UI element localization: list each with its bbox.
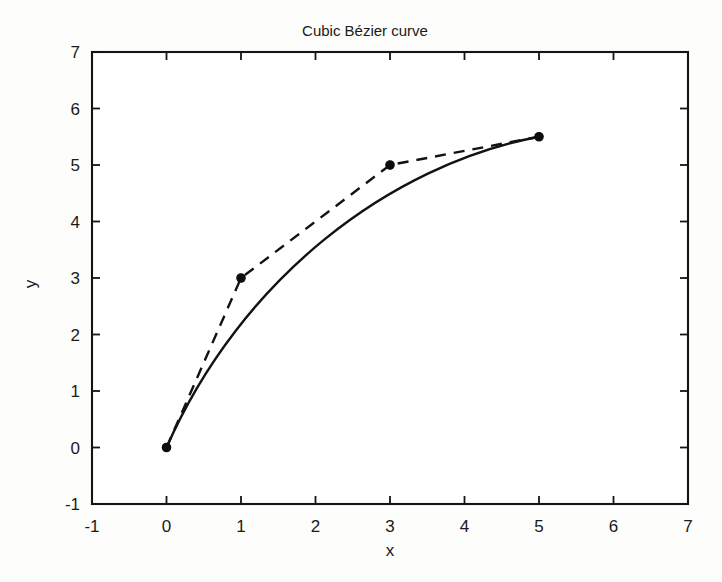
control-point-marker xyxy=(535,133,543,141)
y-tick-label: -1 xyxy=(65,495,80,514)
y-tick-label: 3 xyxy=(71,269,80,288)
bezier-curve-figure: Cubic Bézier curve -101234567 -101234567… xyxy=(0,0,722,582)
x-tick-labels: -101234567 xyxy=(84,517,692,536)
y-axis-label: y xyxy=(21,279,40,288)
y-tick-label: 5 xyxy=(71,156,80,175)
control-point-marker xyxy=(386,161,394,169)
x-tick-label: 5 xyxy=(534,517,543,536)
x-tick-label: 0 xyxy=(162,517,171,536)
x-tick-label: 2 xyxy=(311,517,320,536)
x-tick-label: 6 xyxy=(609,517,618,536)
x-tick-label: 7 xyxy=(683,517,692,536)
x-tick-label: 4 xyxy=(460,517,469,536)
y-tick-label: 6 xyxy=(71,100,80,119)
x-tick-label: 1 xyxy=(236,517,245,536)
y-tick-label: 7 xyxy=(71,43,80,62)
x-axis-label: x xyxy=(386,541,395,560)
y-tick-label: 4 xyxy=(71,213,80,232)
y-tick-label: 2 xyxy=(71,326,80,345)
y-tick-label: 0 xyxy=(71,439,80,458)
control-point-marker xyxy=(162,443,170,451)
control-point-marker xyxy=(237,274,245,282)
chart-title: Cubic Bézier curve xyxy=(302,22,428,39)
y-tick-label: 1 xyxy=(71,382,80,401)
chart-page: Cubic Bézier curve -101234567 -101234567… xyxy=(0,0,722,582)
x-tick-label: 3 xyxy=(385,517,394,536)
plot-area-background xyxy=(92,52,688,504)
x-tick-label: -1 xyxy=(84,517,99,536)
y-tick-labels: -101234567 xyxy=(65,43,80,514)
